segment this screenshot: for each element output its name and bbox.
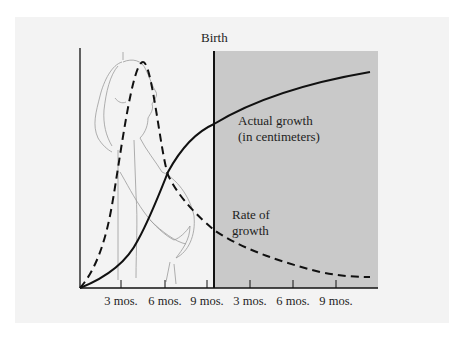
postnatal-shaded-region: [214, 51, 378, 288]
rate-of-growth-label-line1: Rate of: [232, 207, 270, 223]
x-tick-label: 3 mos.: [233, 294, 266, 309]
pregnant-woman-illustration: [95, 52, 194, 284]
x-tick-label: 3 mos.: [104, 294, 137, 309]
actual-growth-label-line2: (in centimeters): [238, 129, 320, 145]
rate-of-growth-label-line2: growth: [232, 223, 269, 239]
x-tick-label: 6 mos.: [148, 294, 181, 309]
x-tick-label: 6 mos.: [276, 294, 309, 309]
x-tick-label: 9 mos.: [319, 294, 352, 309]
actual-growth-label-line1: Actual growth: [238, 113, 313, 129]
birth-label: Birth: [201, 30, 228, 46]
x-tick-label: 9 mos.: [190, 294, 223, 309]
growth-chart: [0, 0, 468, 341]
